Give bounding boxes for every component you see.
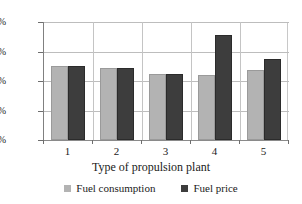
legend-swatch-icon: [64, 185, 71, 192]
bar-fuel-consumption: [51, 66, 68, 140]
x-axis-tick-mark: [239, 140, 240, 144]
bar-fuel-consumption: [149, 74, 166, 140]
gridline: [44, 140, 289, 141]
bar-group: [43, 22, 92, 140]
y-axis-tick-label: 40%: [0, 106, 6, 116]
x-axis-title: Type of propulsion plant: [0, 160, 302, 174]
y-axis-tick-label: 160%: [0, 17, 6, 27]
bar-fuel-consumption: [247, 70, 264, 140]
legend-item[interactable]: Fuel price: [181, 182, 237, 195]
y-axis-tick-label: 0%: [0, 135, 6, 145]
bar-fuel-price: [264, 59, 281, 140]
bar-fuel-consumption: [100, 68, 117, 140]
x-axis-tick-label: 2: [102, 145, 132, 157]
x-axis-tick-mark: [43, 140, 44, 144]
bar-fuel-price: [117, 68, 134, 140]
x-axis-tick-mark: [141, 140, 142, 144]
x-axis-tick-mark: [288, 140, 289, 144]
bar-chart: 0%40%80%120%160% 12345 Type of propulsio…: [0, 0, 302, 204]
bars-layer: [43, 22, 288, 140]
x-axis-tick-label: 5: [249, 145, 279, 157]
y-axis-tick-label: 80%: [0, 76, 6, 86]
x-axis-tick-label: 3: [151, 145, 181, 157]
legend-label: Fuel consumption: [76, 182, 155, 195]
x-axis-tick-label: 1: [53, 145, 83, 157]
bar-group: [239, 22, 288, 140]
bar-group: [92, 22, 141, 140]
bar-fuel-price: [68, 66, 85, 140]
x-axis-tick-mark: [92, 140, 93, 144]
bar-group: [190, 22, 239, 140]
bar-fuel-price: [215, 35, 232, 140]
legend-item[interactable]: Fuel consumption: [64, 182, 155, 195]
bar-fuel-consumption: [198, 75, 215, 140]
y-axis-tick-label: 120%: [0, 47, 6, 57]
chart-legend: Fuel consumptionFuel price: [0, 182, 302, 195]
legend-swatch-icon: [181, 185, 188, 192]
x-axis-tick-label: 4: [200, 145, 230, 157]
legend-label: Fuel price: [193, 182, 237, 195]
bar-group: [141, 22, 190, 140]
x-axis-tick-mark: [190, 140, 191, 144]
bar-fuel-price: [166, 74, 183, 140]
